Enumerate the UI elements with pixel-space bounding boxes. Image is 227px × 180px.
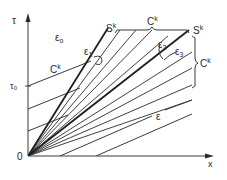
eps0-label: εo: [55, 32, 63, 44]
fan-line: [28, 68, 192, 156]
origin-label: 0: [17, 151, 23, 162]
fan-line: [28, 36, 168, 156]
eps3-label: ε3: [175, 46, 183, 58]
ck-label-top: Ck: [147, 15, 158, 27]
fan-line: [28, 30, 152, 156]
fan-line: [28, 30, 120, 156]
eps-label: ε: [156, 111, 161, 122]
fan-line: [28, 85, 192, 156]
tau-axis-arrow-icon: [26, 13, 31, 22]
x-axis-label: x: [208, 159, 213, 169]
eps2-label: ε2: [158, 39, 166, 51]
eps1-label: ε1: [84, 46, 92, 58]
characteristic-line: [165, 100, 192, 110]
sk-label-right: Sk: [193, 24, 204, 36]
tau0-label: τ₀: [10, 81, 18, 91]
ck-label-right: Ck: [200, 57, 211, 69]
fan-line: [28, 100, 192, 156]
right-brace: [192, 36, 198, 88]
tau-axis-label: τ: [12, 15, 16, 26]
characteristics-diagram: τ x 0 τ₀ εo ε1 ε2 ε3 ε Ck Ck Ck Sk Sk: [0, 0, 227, 180]
characteristic-line: [28, 88, 80, 109]
x-axis-arrow-icon: [205, 154, 214, 159]
shock-line-left: [28, 28, 108, 156]
